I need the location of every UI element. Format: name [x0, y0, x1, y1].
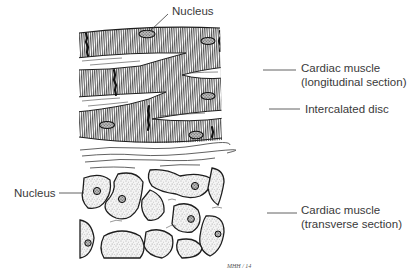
- longitudinal-section: [70, 20, 230, 150]
- label-nucleus-top: Nucleus: [172, 5, 214, 19]
- label-cardiac-muscle-longitudinal: Cardiac muscle (longitudinal section): [301, 62, 406, 89]
- transverse-section: [80, 168, 224, 258]
- connective-tissue-band: [80, 143, 236, 169]
- label-nucleus-left: Nucleus: [14, 187, 56, 201]
- label-intercalated-disc: Intercalated disc: [305, 103, 389, 117]
- artist-signature: MHH / 14: [226, 263, 251, 269]
- cardiac-muscle-illustration: MHH / 14: [0, 0, 410, 275]
- label-cardiac-muscle-transverse: Cardiac muscle (transverse section): [301, 204, 402, 231]
